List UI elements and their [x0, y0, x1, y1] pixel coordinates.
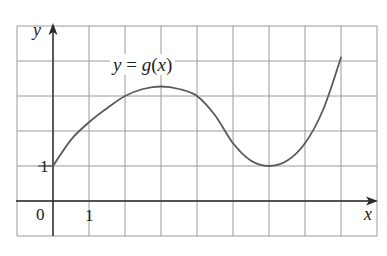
curve-label: y = g(x): [110, 54, 175, 75]
y-tick-label-1: 1: [40, 158, 49, 175]
curve-label-g: g: [142, 54, 152, 75]
origin-label: 0: [36, 206, 45, 223]
curve-label-paren-close: ): [166, 54, 172, 75]
y-axis-label: y: [33, 21, 41, 39]
curve-label-equals: =: [121, 54, 141, 75]
graph-canvas: [0, 0, 387, 256]
x-tick-label-1: 1: [85, 207, 94, 224]
curve-label-x: x: [157, 54, 165, 75]
x-axis-label: x: [364, 205, 372, 223]
grid: [17, 26, 377, 236]
